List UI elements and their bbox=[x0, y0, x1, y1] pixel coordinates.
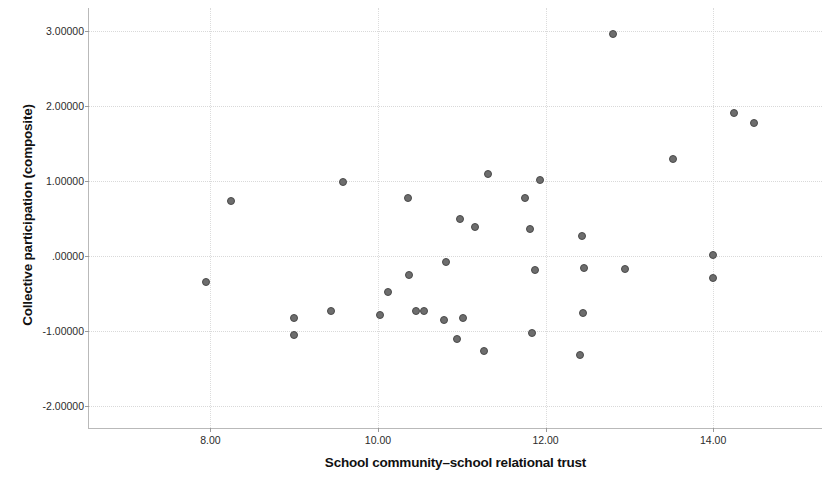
data-point bbox=[576, 351, 584, 359]
data-point bbox=[459, 314, 467, 322]
x-axis-tick-label: 8.00 bbox=[200, 434, 220, 446]
y-axis-tick-mark bbox=[85, 406, 89, 407]
gridline-horizontal bbox=[89, 406, 822, 407]
y-axis-tick-label: -1.00000 bbox=[43, 325, 84, 337]
x-axis-tick-mark bbox=[713, 428, 714, 432]
data-point bbox=[227, 197, 235, 205]
x-axis-tick-label: 14.00 bbox=[700, 434, 726, 446]
data-point bbox=[750, 119, 758, 127]
y-axis-tick-mark bbox=[85, 331, 89, 332]
data-point bbox=[521, 194, 529, 202]
x-axis-tick-mark bbox=[546, 428, 547, 432]
y-axis-tick-label: 1.00000 bbox=[46, 175, 84, 187]
gridline-horizontal bbox=[89, 31, 822, 32]
gridline-vertical bbox=[378, 8, 379, 428]
data-point bbox=[669, 155, 677, 163]
data-point bbox=[580, 264, 588, 272]
data-point bbox=[440, 316, 448, 324]
y-axis-tick-mark bbox=[85, 181, 89, 182]
data-point bbox=[376, 311, 384, 319]
gridline-vertical bbox=[546, 8, 547, 428]
data-point bbox=[405, 271, 413, 279]
x-axis-tick-mark bbox=[210, 428, 211, 432]
y-axis-tick-mark bbox=[85, 31, 89, 32]
data-point bbox=[290, 331, 298, 339]
data-point bbox=[578, 232, 586, 240]
y-axis-tick-mark bbox=[85, 256, 89, 257]
data-point bbox=[339, 178, 347, 186]
data-point bbox=[480, 347, 488, 355]
data-point bbox=[528, 329, 536, 337]
data-point bbox=[526, 225, 534, 233]
gridline-horizontal bbox=[89, 331, 822, 332]
data-point bbox=[404, 194, 412, 202]
y-axis-tick-label: 2.00000 bbox=[46, 100, 84, 112]
data-point bbox=[531, 266, 539, 274]
y-axis-tick-mark bbox=[85, 106, 89, 107]
data-point bbox=[456, 215, 464, 223]
gridline-horizontal bbox=[89, 181, 822, 182]
data-point bbox=[442, 258, 450, 266]
data-point bbox=[609, 30, 617, 38]
data-point bbox=[290, 314, 298, 322]
gridline-vertical bbox=[210, 8, 211, 428]
data-point bbox=[579, 309, 587, 317]
data-point bbox=[621, 265, 629, 273]
x-axis-title: School community–school relational trust bbox=[88, 455, 823, 470]
data-point bbox=[709, 274, 717, 282]
gridline-vertical bbox=[713, 8, 714, 428]
data-point bbox=[484, 170, 492, 178]
data-point bbox=[730, 109, 738, 117]
data-point bbox=[412, 307, 420, 315]
data-point bbox=[202, 278, 210, 286]
plot-area: 3.000002.000001.00000.00000-1.00000-2.00… bbox=[88, 8, 822, 429]
data-point bbox=[709, 251, 717, 259]
data-point bbox=[327, 307, 335, 315]
data-point bbox=[471, 223, 479, 231]
y-axis-tick-label: 3.00000 bbox=[46, 25, 84, 37]
data-point bbox=[420, 307, 428, 315]
data-point bbox=[536, 176, 544, 184]
x-axis-tick-mark bbox=[378, 428, 379, 432]
x-axis-tick-label: 12.00 bbox=[532, 434, 558, 446]
x-axis-tick-label: 10.00 bbox=[365, 434, 391, 446]
scatter-plot-figure: Collective participation (composite) 3.0… bbox=[0, 0, 835, 477]
data-point bbox=[384, 288, 392, 296]
data-point bbox=[453, 335, 461, 343]
gridline-horizontal bbox=[89, 106, 822, 107]
y-axis-tick-label: -2.00000 bbox=[43, 400, 84, 412]
y-axis-tick-label: .00000 bbox=[52, 250, 84, 262]
y-axis-title: Collective participation (composite) bbox=[14, 0, 40, 430]
